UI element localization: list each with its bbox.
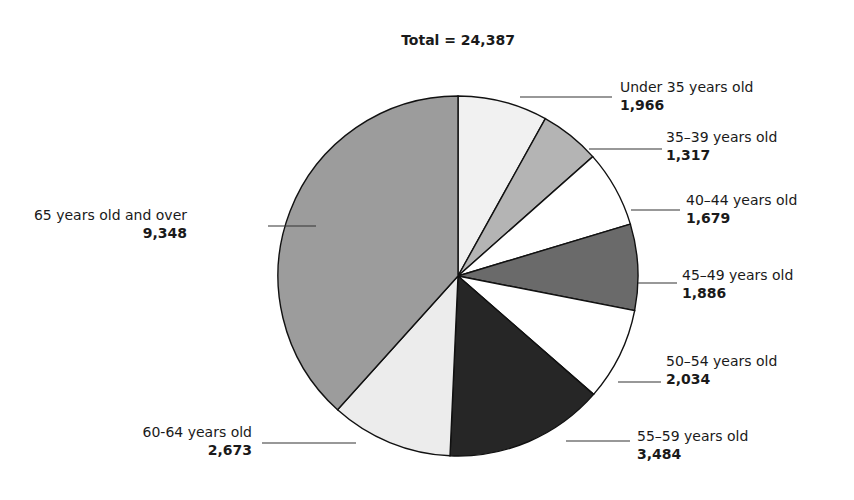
pie-chart xyxy=(0,0,854,500)
label-value: 2,034 xyxy=(666,370,777,388)
label-name: 45–49 years old xyxy=(682,267,793,283)
label-value: 1,679 xyxy=(686,209,797,227)
label-value: 1,317 xyxy=(666,146,777,164)
pie-slices xyxy=(278,96,638,456)
label-name: 35–39 years old xyxy=(666,129,777,145)
label-50-54: 50–54 years old 2,034 xyxy=(666,352,777,388)
label-under-35: Under 35 years old 1,966 xyxy=(620,78,753,114)
label-60-64: 60-64 years old 2,673 xyxy=(143,423,252,459)
label-value: 1,886 xyxy=(682,284,793,302)
label-45-49: 45–49 years old 1,886 xyxy=(682,266,793,302)
label-value: 2,673 xyxy=(143,441,252,459)
label-name: 60-64 years old xyxy=(143,424,252,440)
label-40-44: 40–44 years old 1,679 xyxy=(686,191,797,227)
label-35-39: 35–39 years old 1,317 xyxy=(666,128,777,164)
label-value: 3,484 xyxy=(637,445,748,463)
label-name: 55–59 years old xyxy=(637,428,748,444)
label-value: 1,966 xyxy=(620,96,753,114)
label-name: 65 years old and over xyxy=(34,207,187,223)
label-55-59: 55–59 years old 3,484 xyxy=(637,427,748,463)
label-name: 40–44 years old xyxy=(686,192,797,208)
label-value: 9,348 xyxy=(34,224,187,242)
label-65-over: 65 years old and over 9,348 xyxy=(34,206,187,242)
label-name: Under 35 years old xyxy=(620,79,753,95)
label-name: 50–54 years old xyxy=(666,353,777,369)
